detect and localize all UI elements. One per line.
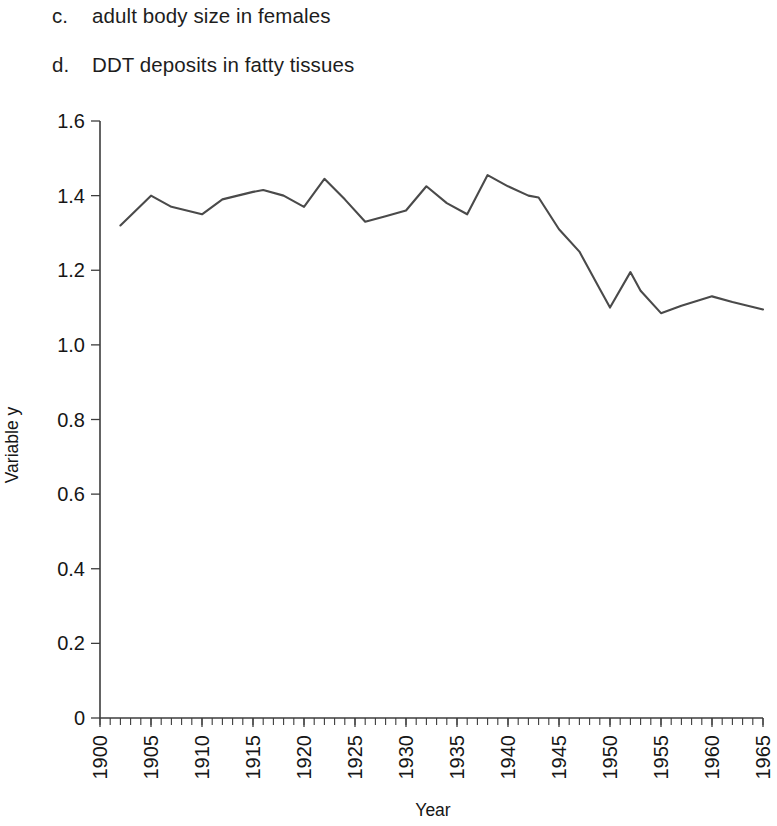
x-tick-label: 1920 [293,735,315,780]
x-tick-label: 1940 [497,735,519,780]
x-axis: 1900190519101915192019251930193519401945… [89,718,774,780]
x-tick-label: 1960 [701,735,723,780]
x-tick-label: 1955 [650,735,672,780]
y-tick-label: 1.4 [57,185,85,207]
chart-canvas: 00.20.40.60.81.01.21.41.6 19001905191019… [0,0,777,826]
x-axis-title: Year [415,800,451,820]
x-tick-label: 1910 [191,735,213,780]
x-axis-minor-ticks [100,718,763,725]
y-tick-label: 1.2 [57,259,85,281]
y-axis-title: Variable y [2,406,22,483]
x-axis-tick-labels: 1900190519101915192019251930193519401945… [89,735,774,780]
x-tick-label: 1925 [344,735,366,780]
y-tick-label: 0 [74,707,85,729]
x-tick-label: 1945 [548,735,570,780]
x-tick-label: 1905 [140,735,162,780]
x-tick-label: 1900 [89,735,111,780]
x-tick-label: 1935 [446,735,468,780]
y-tick-label: 0.6 [57,483,85,505]
x-tick-label: 1965 [752,735,774,780]
x-tick-label: 1930 [395,735,417,780]
y-tick-label: 1.0 [57,334,85,356]
line-chart: 00.20.40.60.81.01.21.41.6 19001905191019… [0,0,777,826]
y-tick-label: 1.6 [57,110,85,132]
x-axis-major-ticks [100,718,763,727]
y-tick-label: 0.8 [57,409,85,431]
y-tick-label: 0.4 [57,558,85,580]
x-tick-label: 1915 [242,735,264,780]
x-tick-label: 1950 [599,735,621,780]
y-axis: 00.20.40.60.81.01.21.41.6 [57,110,100,729]
data-series-line [120,175,763,313]
y-axis-ticks [91,121,100,718]
y-axis-tick-labels: 00.20.40.60.81.01.21.41.6 [57,110,85,729]
y-tick-label: 0.2 [57,632,85,654]
